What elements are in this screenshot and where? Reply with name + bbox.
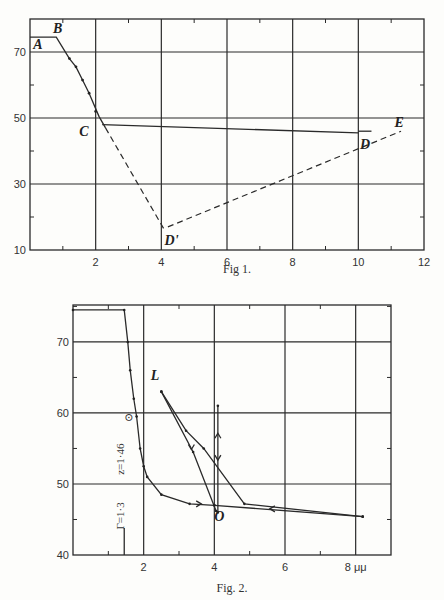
arrow-down-icon bbox=[188, 444, 194, 449]
x-tick-label: 8 μμ bbox=[345, 561, 367, 573]
y-tick-label: 30 bbox=[14, 178, 26, 190]
data-point bbox=[213, 504, 216, 507]
series-line-l-outer bbox=[161, 392, 362, 517]
y-tick-label: 40 bbox=[57, 549, 69, 561]
data-point bbox=[188, 503, 191, 506]
point-label: D bbox=[359, 137, 370, 152]
x-tick-label: 6 bbox=[282, 561, 288, 573]
series-line-l-inner bbox=[161, 392, 216, 511]
figure-caption: Fig. 2. bbox=[216, 581, 247, 595]
data-point bbox=[135, 415, 138, 418]
data-point bbox=[68, 57, 71, 60]
data-point bbox=[361, 515, 364, 518]
x-tick-label: 12 bbox=[418, 256, 430, 268]
data-point bbox=[142, 465, 145, 468]
figure-caption: Fig 1. bbox=[223, 262, 251, 276]
data-point bbox=[126, 341, 129, 344]
data-point bbox=[75, 65, 78, 68]
point-label: A bbox=[32, 37, 42, 52]
point-label: D' bbox=[164, 233, 179, 248]
fig1-chart: 2468101210305070ABCDD'EFig 1. bbox=[14, 19, 430, 276]
x-tick-label: 8 bbox=[290, 256, 296, 268]
series-line-c-d-solid- bbox=[102, 125, 358, 133]
data-point bbox=[160, 390, 163, 393]
x-tick-label: 10 bbox=[352, 256, 364, 268]
point-label: E bbox=[393, 115, 403, 130]
y-tick-label: 50 bbox=[57, 478, 69, 490]
data-point bbox=[132, 397, 135, 400]
point-label: O bbox=[214, 509, 224, 524]
data-point bbox=[202, 447, 205, 450]
series-line-o-to-right bbox=[214, 505, 362, 516]
x-tick-label: 2 bbox=[141, 561, 147, 573]
data-point bbox=[81, 79, 84, 82]
data-point bbox=[72, 309, 75, 312]
point-label: C bbox=[79, 124, 89, 139]
data-point bbox=[146, 476, 149, 479]
figure-canvas: 2468101210305070ABCDD'EFig 1. 2468 μμ405… bbox=[0, 0, 444, 600]
data-point bbox=[217, 405, 220, 408]
y-tick-label: 70 bbox=[14, 46, 26, 58]
y-tick-label: 60 bbox=[57, 407, 69, 419]
data-point bbox=[139, 447, 142, 450]
circle-dot-symbol: ⊙ bbox=[124, 411, 133, 423]
series-line-c-d-dashed- bbox=[106, 128, 165, 230]
x-tick-label: 4 bbox=[211, 561, 217, 573]
data-point bbox=[123, 309, 126, 312]
data-point bbox=[129, 369, 132, 372]
data-point bbox=[243, 503, 246, 506]
point-label: L bbox=[150, 368, 160, 383]
fig2-chart: 2468 μμ40506070LO⊙Γ=1·3z=1·46Fig. 2. bbox=[57, 305, 391, 595]
data-point bbox=[94, 110, 97, 113]
data-point bbox=[160, 493, 163, 496]
data-point bbox=[185, 429, 188, 432]
point-label: B bbox=[52, 21, 62, 36]
data-point bbox=[88, 92, 91, 95]
y-tick-label: 70 bbox=[57, 336, 69, 348]
data-point bbox=[192, 451, 195, 454]
y-tick-label: 10 bbox=[14, 244, 26, 256]
y-tick-label: 50 bbox=[14, 112, 26, 124]
x-tick-label: 2 bbox=[93, 256, 99, 268]
rotated-annotation: z=1·46 bbox=[114, 443, 126, 475]
x-tick-label: 4 bbox=[158, 256, 164, 268]
rotated-annotation: Γ=1·3 bbox=[114, 502, 126, 530]
